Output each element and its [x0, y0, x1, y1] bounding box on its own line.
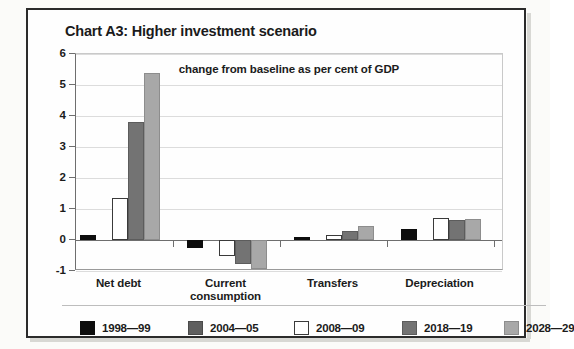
bar	[433, 218, 449, 240]
frame-shadow-right	[527, 13, 531, 339]
y-tick-label-6: 6	[40, 47, 66, 59]
bar	[342, 231, 358, 240]
category-label-line: Net debt	[65, 277, 172, 290]
y-tick-label-0: 0	[40, 233, 66, 245]
gridline-4	[76, 116, 502, 117]
chart-frame: Chart A3: Higher investment scenario 654…	[26, 8, 526, 338]
category-label-current-consumption: Currentconsumption	[172, 277, 279, 303]
category-label-line: Transfers	[279, 277, 386, 290]
x-axis-tick	[280, 240, 281, 247]
gridline-5	[76, 85, 502, 86]
gridline-6	[76, 54, 502, 55]
gridline-0	[76, 240, 502, 241]
bar	[358, 226, 374, 240]
legend-label: 2028—29	[526, 322, 574, 334]
legend-swatch-icon	[402, 321, 417, 335]
legend-label: 2008—09	[316, 322, 364, 334]
bar	[449, 220, 465, 240]
bar	[235, 240, 251, 264]
y-tick-label-1: 1	[40, 202, 66, 214]
chart-legend: 1998—992004—052008—092018—192028—29	[80, 318, 540, 338]
legend-swatch-icon	[504, 321, 519, 335]
category-label-transfers: Transfers	[279, 277, 386, 290]
category-label-line: Current	[172, 277, 279, 290]
bar	[294, 237, 310, 240]
category-label-line: consumption	[172, 290, 279, 303]
y-tick-label-4: 4	[40, 109, 66, 121]
x-axis-tick	[494, 240, 495, 247]
bar	[465, 219, 481, 240]
y-tick-label--1: -1	[40, 264, 66, 276]
bar	[187, 240, 203, 248]
legend-item[interactable]: 2004—05	[188, 321, 258, 335]
y-tick-mark--1	[69, 270, 75, 271]
bar	[326, 235, 342, 240]
legend-swatch-icon	[80, 321, 95, 335]
y-tick-label-5: 5	[40, 78, 66, 90]
x-axis-tick	[387, 240, 388, 247]
legend-swatch-icon	[294, 321, 309, 335]
bar	[80, 235, 96, 240]
bar	[112, 198, 128, 240]
legend-item[interactable]: 1998—99	[80, 321, 150, 335]
bar	[219, 240, 235, 256]
legend-label: 2018—19	[424, 322, 472, 334]
legend-swatch-icon	[188, 321, 203, 335]
chart-subtitle: change from baseline as per cent of GDP	[76, 63, 502, 75]
bar	[144, 73, 160, 240]
bar	[401, 229, 417, 240]
category-label-line: Depreciation	[386, 277, 493, 290]
category-label-net-debt: Net debt	[65, 277, 172, 290]
y-tick-label-2: 2	[40, 171, 66, 183]
legend-divider	[62, 305, 546, 306]
legend-item[interactable]: 2008—09	[294, 321, 364, 335]
legend-item[interactable]: 2028—29	[504, 321, 574, 335]
y-tick-label-3: 3	[40, 140, 66, 152]
chart-title: Chart A3: Higher investment scenario	[65, 23, 317, 39]
x-axis-tick	[173, 240, 174, 247]
legend-label: 2004—05	[210, 322, 258, 334]
bar	[251, 240, 267, 269]
legend-item[interactable]: 2018—19	[402, 321, 472, 335]
plot-area: change from baseline as per cent of GDP	[75, 53, 503, 270]
gridline--1	[76, 271, 502, 272]
bar	[128, 122, 144, 240]
frame-shadow-bottom	[30, 338, 530, 342]
legend-label: 1998—99	[102, 322, 150, 334]
category-label-depreciation: Depreciation	[386, 277, 493, 290]
